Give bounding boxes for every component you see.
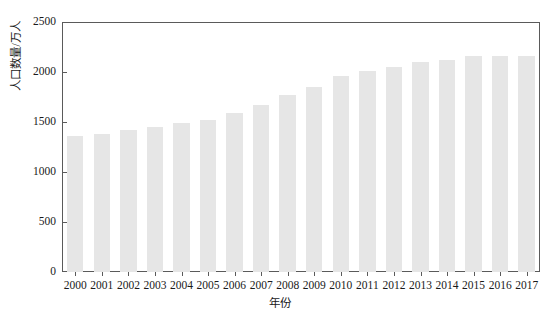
bar <box>253 105 269 272</box>
bar <box>465 56 481 272</box>
bar <box>173 123 189 273</box>
x-axis-tick-labels: 2000200120022003200420052006200720082009… <box>62 278 540 294</box>
x-tick-mark <box>261 272 262 276</box>
y-tick-mark <box>62 222 67 223</box>
x-tick-mark <box>474 272 475 276</box>
y-tick-mark <box>62 72 67 73</box>
x-tick-mark <box>527 272 528 276</box>
x-tick-label: 2008 <box>274 278 301 292</box>
y-tick-mark <box>62 122 67 123</box>
bar <box>200 120 216 273</box>
bar <box>412 62 428 272</box>
bar <box>518 56 534 273</box>
x-tick-mark <box>367 272 368 276</box>
bar <box>386 67 402 273</box>
x-tick-label: 2010 <box>328 278 355 292</box>
x-tick-mark <box>447 272 448 276</box>
x-tick-label: 2005 <box>195 278 222 292</box>
bar <box>67 136 83 272</box>
x-tick-label: 2017 <box>513 278 540 292</box>
x-tick-mark <box>500 272 501 276</box>
x-tick-mark <box>421 272 422 276</box>
x-tick-label: 2004 <box>168 278 195 292</box>
bar <box>94 134 110 273</box>
x-tick-mark <box>128 272 129 276</box>
y-tick-label: 500 <box>22 216 56 228</box>
bar <box>306 87 322 273</box>
y-tick-label: 1000 <box>22 166 56 178</box>
x-tick-label: 2006 <box>221 278 248 292</box>
x-tick-label: 2014 <box>434 278 461 292</box>
x-tick-label: 2007 <box>248 278 275 292</box>
bar <box>147 127 163 272</box>
y-tick-label: 1500 <box>22 116 56 128</box>
x-tick-label: 2001 <box>89 278 116 292</box>
x-tick-mark <box>75 272 76 276</box>
x-tick-mark <box>208 272 209 276</box>
y-axis-tick-labels: 05001000150020002500 <box>20 0 56 326</box>
x-tick-label: 2015 <box>460 278 487 292</box>
x-tick-label: 2000 <box>62 278 89 292</box>
x-tick-label: 2009 <box>301 278 328 292</box>
x-tick-mark <box>288 272 289 276</box>
x-tick-label: 2013 <box>407 278 434 292</box>
bar <box>439 60 455 272</box>
bar <box>279 95 295 272</box>
bars-layer <box>62 22 540 272</box>
x-tick-label: 2011 <box>354 278 381 292</box>
x-axis-title: 年份 <box>0 296 560 310</box>
bar <box>120 130 136 272</box>
x-tick-mark <box>314 272 315 276</box>
x-tick-mark <box>182 272 183 276</box>
x-tick-label: 2002 <box>115 278 142 292</box>
y-tick-label: 2500 <box>22 16 56 28</box>
y-tick-mark <box>62 172 67 173</box>
x-tick-mark <box>341 272 342 276</box>
x-tick-label: 2012 <box>381 278 408 292</box>
bar <box>333 76 349 272</box>
x-tick-mark <box>394 272 395 276</box>
x-tick-mark <box>235 272 236 276</box>
x-tick-label: 2016 <box>487 278 514 292</box>
y-tick-label: 2000 <box>22 66 56 78</box>
bar <box>492 56 508 272</box>
bar <box>359 71 375 273</box>
y-tick-label: 0 <box>22 266 56 278</box>
bar <box>226 113 242 272</box>
x-tick-mark <box>102 272 103 276</box>
x-tick-label: 2003 <box>142 278 169 292</box>
bar-chart-figure: 人口数量/万人 05001000150020002500 20002001200… <box>0 0 560 326</box>
x-tick-mark <box>155 272 156 276</box>
